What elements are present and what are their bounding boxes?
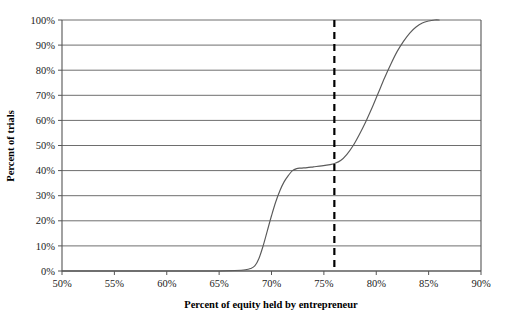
chart-svg: 0%10%20%30%40%50%60%70%80%90%100% 50%55%…	[0, 0, 512, 325]
x-tick-label-80: 80%	[367, 278, 387, 289]
x-tick-label-60: 60%	[157, 278, 177, 289]
x-axis-tick-labels-group: 50%55%60%65%70%75%80%85%90%	[52, 278, 491, 289]
x-tick-label-85: 85%	[419, 278, 439, 289]
y-tick-label-30: 30%	[36, 190, 56, 201]
x-axis-title: Percent of equity held by entrepreneur	[184, 299, 358, 310]
y-tick-label-40: 40%	[36, 165, 56, 176]
y-tick-label-50: 50%	[36, 140, 56, 151]
y-tick-label-100: 100%	[31, 15, 56, 26]
x-tick-label-90: 90%	[471, 278, 491, 289]
cdf-chart: 0%10%20%30%40%50%60%70%80%90%100% 50%55%…	[0, 0, 512, 325]
chart-background	[0, 0, 512, 325]
y-tick-label-20: 20%	[36, 215, 56, 226]
y-tick-label-60: 60%	[36, 115, 56, 126]
y-axis-title: Percent of trials	[5, 110, 16, 182]
x-tick-label-70: 70%	[262, 278, 282, 289]
y-tick-label-70: 70%	[36, 90, 56, 101]
x-tick-label-75: 75%	[314, 278, 334, 289]
y-tick-label-80: 80%	[36, 65, 56, 76]
x-tick-label-50: 50%	[52, 278, 72, 289]
y-tick-label-90: 90%	[36, 40, 56, 51]
x-tick-label-65: 65%	[210, 278, 230, 289]
y-tick-label-0: 0%	[41, 266, 55, 277]
x-tick-label-55: 55%	[105, 278, 125, 289]
y-tick-label-10: 10%	[36, 241, 56, 252]
